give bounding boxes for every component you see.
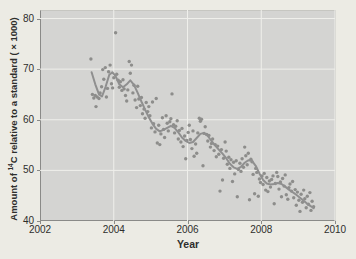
data-point [261,183,264,186]
data-point [266,190,269,193]
x-tick-mark [40,221,41,224]
data-point [209,145,212,148]
data-point [100,85,103,88]
data-point [299,193,302,196]
data-point [280,195,283,198]
data-point [194,142,197,145]
data-point [281,177,284,180]
data-point [94,105,97,108]
data-point [102,78,105,81]
data-point [179,140,182,143]
data-point [244,154,247,157]
data-point [309,209,312,212]
data-point [195,152,198,155]
data-point [133,98,136,101]
data-point [223,140,226,143]
data-point [243,145,246,148]
data-point [215,155,218,158]
data-point [108,63,111,66]
data-point [180,127,183,130]
data-point [240,157,243,160]
y-axis-label: Amount of 14C relative to a standard ( ×… [7,9,21,229]
x-tick-mark [114,221,115,224]
data-point [124,94,127,97]
data-point [188,124,191,127]
data-point [167,129,170,132]
data-point [181,145,184,148]
data-point [302,188,305,191]
data-point [248,198,251,201]
data-point [189,138,192,141]
data-point [136,85,139,88]
data-point [212,149,215,152]
data-point [275,171,278,174]
data-point [229,158,232,161]
data-point [265,176,268,179]
y-tick-mark [37,120,40,121]
data-point [295,204,298,207]
data-point [233,172,236,175]
data-point [169,117,172,120]
trend-line [92,72,314,208]
data-point [221,178,224,181]
y-axis-label-superscript: 14 [7,163,14,170]
data-point [158,143,161,146]
data-point [147,105,150,108]
data-point [271,174,274,177]
data-point [218,189,221,192]
data-point [159,132,162,135]
data-point [251,173,254,176]
data-point [201,164,204,167]
data-point [125,99,128,102]
y-axis-label-prefix: Amount of [8,171,19,221]
x-tick-mark [335,221,336,224]
data-point [145,101,148,104]
data-point [277,187,280,190]
data-point [286,198,289,201]
data-point [263,172,266,175]
data-point [284,173,287,176]
x-axis-label: Year [128,238,248,250]
data-point [305,206,308,209]
data-point [173,131,176,134]
data-point [269,185,272,188]
data-point [153,130,156,133]
data-point [163,136,166,139]
data-point [236,195,239,198]
data-point [121,78,124,81]
data-point [164,114,167,117]
data-point [217,153,220,156]
data-point [291,180,294,183]
y-tick-mark [37,19,40,20]
data-point [228,167,231,170]
data-point [104,66,107,69]
data-point [183,134,186,137]
data-point [97,97,100,100]
data-point [184,157,187,160]
x-tick-label: 2004 [92,224,136,236]
data-point [135,106,138,109]
data-point [110,82,113,85]
data-point [130,63,133,66]
data-point [247,152,250,155]
data-point [129,72,132,75]
data-point [273,202,276,205]
data-point [292,196,295,199]
data-point [258,177,261,180]
data-point [187,131,190,134]
data-point [89,57,92,60]
data-point [231,180,234,183]
data-point [298,210,301,213]
data-point [131,91,134,94]
data-point [310,200,313,203]
x-tick-mark [261,221,262,224]
data-point [308,191,311,194]
data-point [257,195,260,198]
data-point [191,129,194,132]
x-tick-label: 2002 [18,224,62,236]
data-point [126,88,129,91]
y-tick-mark [37,170,40,171]
data-point [239,170,242,173]
x-tick-label: 2010 [313,224,356,236]
data-point [177,137,180,140]
